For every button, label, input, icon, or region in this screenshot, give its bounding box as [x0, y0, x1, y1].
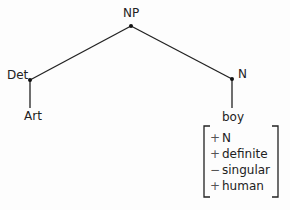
feature-matrix: +N +definite −singular +human [210, 130, 270, 194]
feature-row: +human [210, 178, 270, 194]
det-node-label: Det [7, 68, 28, 82]
feature-row: +definite [210, 146, 270, 162]
n-node-label: N [238, 67, 247, 81]
art-leaf-label: Art [24, 109, 42, 123]
boy-leaf-label: boy [222, 110, 244, 124]
np-node-label: NP [123, 6, 139, 20]
feature-row: −singular [210, 162, 270, 178]
feature-row: +N [210, 130, 270, 146]
